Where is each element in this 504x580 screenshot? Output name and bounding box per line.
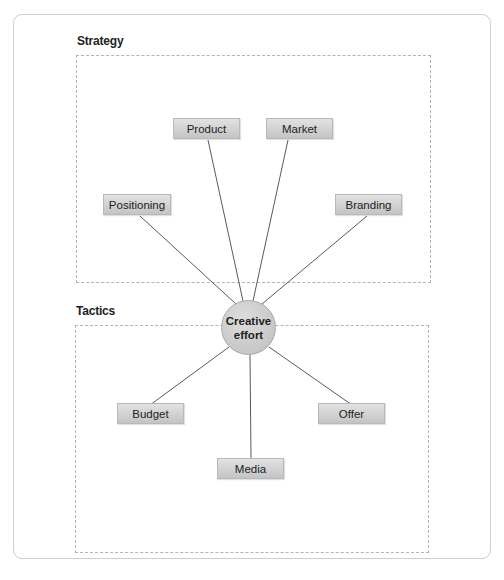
node-offer: Offer bbox=[318, 403, 385, 424]
link-branding bbox=[262, 216, 367, 304]
node-product: Product bbox=[173, 118, 240, 139]
link-media bbox=[250, 355, 251, 458]
link-product bbox=[208, 140, 243, 301]
hub-line-1: Creative bbox=[226, 314, 271, 328]
link-positioning bbox=[140, 216, 236, 304]
link-budget bbox=[150, 347, 229, 405]
node-branding: Branding bbox=[335, 194, 402, 215]
link-market bbox=[253, 140, 288, 301]
hub-line-2: effort bbox=[234, 328, 263, 342]
connector-lines bbox=[0, 0, 504, 580]
link-offer bbox=[269, 347, 352, 405]
node-media: Media bbox=[217, 458, 284, 479]
node-market: Market bbox=[266, 118, 333, 139]
node-positioning: Positioning bbox=[103, 194, 171, 215]
hub-creative-effort: Creative effort bbox=[221, 300, 276, 355]
node-budget: Budget bbox=[117, 403, 184, 424]
